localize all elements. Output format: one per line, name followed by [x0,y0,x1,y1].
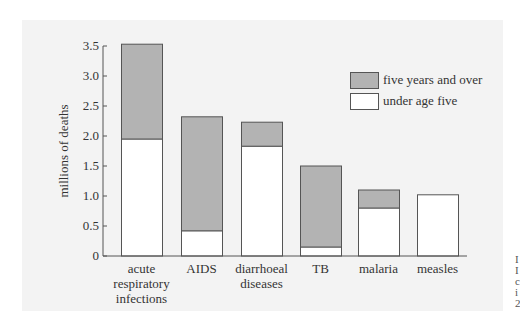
bar-segment [359,208,400,256]
x-category-label: TB [312,261,329,276]
bar-segment [182,117,223,231]
y-axis-label: millions of deaths [56,104,71,197]
y-axis: 00.51.01.52.02.53.03.5 [83,38,107,263]
bar-segment [301,166,342,247]
bar-segment [182,231,223,256]
bar-diarrhoeal-diseases [242,122,283,256]
x-category-label: AIDS [186,261,216,276]
legend-swatch [351,94,379,110]
legend-label: five years and over [383,72,483,87]
y-tick-label: 3.0 [83,68,99,83]
bar-aids [182,117,223,256]
bar-tb [301,166,342,256]
x-category-label: infections [116,291,167,306]
bar-segment [122,44,163,139]
y-tick-label: 1.0 [83,188,99,203]
y-tick-label: 1.5 [83,158,99,173]
x-category-label: acute [128,261,156,276]
x-category-label: diseases [240,276,283,291]
stacked-bar-chart: 00.51.01.52.02.53.03.5 acuterespiratoryi… [0,0,520,328]
x-axis: acuterespiratoryinfectionsAIDSdiarrhoeal… [103,256,467,306]
y-tick-label: 0.5 [83,218,99,233]
x-category-label: respiratory [113,276,170,291]
x-category-label: malaria [359,261,398,276]
bar-malaria [359,190,400,256]
bar-measles [418,195,459,256]
x-category-label: measles [417,261,458,276]
bar-acute-respiratory-infections [122,44,163,256]
cut-off-caption-text: IIci2 [515,253,520,309]
y-tick-label: 2.0 [83,128,99,143]
y-tick-label: 0 [93,248,100,263]
legend: five years and overunder age five [351,72,483,110]
edge-char: 2 [515,297,520,309]
bar-segment [242,146,283,256]
y-tick-label: 3.5 [83,38,99,53]
y-tick-label: 2.5 [83,98,99,113]
x-category-label: diarrhoeal [235,261,288,276]
bar-segment [301,247,342,256]
bar-segment [359,190,400,208]
legend-swatch [351,73,379,89]
bar-segment [418,195,459,256]
bar-segment [122,139,163,256]
bar-segment [242,122,283,146]
legend-label: under age five [383,93,458,108]
